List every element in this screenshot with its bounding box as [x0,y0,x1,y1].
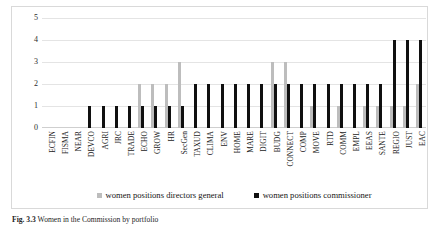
bar-group [346,18,359,128]
bar-group [254,18,267,128]
bar-commissioner [300,84,303,128]
x-axis-label-cell: RTD [320,130,333,187]
bar-commissioner [88,106,91,128]
legend-label: women positions directors general [106,191,224,200]
x-axis-label-cell: COMP [293,130,306,187]
bar-commissioner [379,84,382,128]
bar-group [360,18,373,128]
bar-commissioner [287,84,290,128]
bar-group [214,18,227,128]
x-axis-label-cell: REGIO [386,130,399,187]
bar-commissioner [221,84,224,128]
bar-commissioner [181,106,184,128]
bar-group [267,18,280,128]
bar-commissioner [234,84,237,128]
legend-label: women positions commissioner [263,191,372,200]
x-axis-label-cell: GROW [148,130,161,187]
x-axis-label-cell: ECHO [135,130,148,187]
bar-commissioner [406,40,409,128]
bar-group [307,18,320,128]
x-axis-label-cell: MOVE [307,130,320,187]
bar-commissioner [327,84,330,128]
bar-commissioner [141,106,144,128]
x-axis-label-cell: COMM [333,130,346,187]
bar-commissioner [168,106,171,128]
bar-commissioner [247,84,250,128]
x-axis-label-cell: BUDG [267,130,280,187]
bar-commissioner [154,106,157,128]
y-tick-label-0: 0 [34,124,38,132]
bar-group [55,18,68,128]
plot-area: 5 4 3 2 1 0 [42,18,426,128]
bar-group [95,18,108,128]
y-tick-label-3: 3 [34,58,38,66]
x-axis-label-cell: FISMA [55,130,68,187]
bar-group [399,18,412,128]
x-axis-label-cell: JUST [399,130,412,187]
bar-group [42,18,55,128]
x-axis-label-cell: DEVCO [82,130,95,187]
legend-item: women positions directors general [97,191,224,200]
bar-commissioner [313,84,316,128]
bar-commissioner [207,84,210,128]
bar-group [82,18,95,128]
bar-commissioner [115,106,118,128]
bar-commissioner [340,84,343,128]
bar-group [174,18,187,128]
bar-commissioner [128,106,131,128]
legend-item: women positions commissioner [254,191,372,200]
bar-group [121,18,134,128]
x-axis-label-cell: CLIMA [201,130,214,187]
bar-commissioner [274,84,277,128]
bar-group [386,18,399,128]
x-axis-label: EAC [419,131,426,146]
x-axis-label-cell: DIGIT [254,130,267,187]
bar-group [108,18,121,128]
y-tick-label-2: 2 [34,80,38,88]
bar-group [227,18,240,128]
legend-swatch-icon [97,193,102,198]
figure-caption: Fig. 3.3 Women in the Commission by port… [12,215,432,224]
x-axis-label-cell: CONNECT [280,130,293,187]
x-axis-label-cell: SecGen [174,130,187,187]
bar-commissioner [102,106,105,128]
y-tick-label-1: 1 [34,102,38,110]
x-axis-label-cell: NEAR [68,130,81,187]
x-axis-label-cell: HOME [227,130,240,187]
bar-commissioner [419,40,422,128]
legend-swatch-icon [254,193,259,198]
bar-group [413,18,426,128]
bar-group [241,18,254,128]
x-axis-label-cell: TRADE [121,130,134,187]
bar-commissioner [393,40,396,128]
bar-group [373,18,386,128]
x-axis-label-cell: AGRI [95,130,108,187]
x-axis-label-cell: ENV [214,130,227,187]
chart-legend: women positions directors generalwomen p… [42,191,426,200]
x-axis-label-cell: EAC [413,130,426,187]
bar-commissioner [353,84,356,128]
x-axis-label-cell: TAXUD [188,130,201,187]
bar-group [161,18,174,128]
bar-commissioner [194,84,197,128]
bar-group [201,18,214,128]
x-axis-labels: ECFINFISMANEARDEVCOAGRIJRCTRADEECHOGROWH… [42,130,426,187]
x-axis-label-cell: EEAS [360,130,373,187]
bar-group [148,18,161,128]
bar-group [135,18,148,128]
x-axis-label-cell: JRC [108,130,121,187]
bar-group [333,18,346,128]
bar-commissioner [260,84,263,128]
y-tick-label-4: 4 [34,36,38,44]
x-axis-label-cell: HR [161,130,174,187]
figure-caption-text: Women in the Commission by portfolio [38,215,159,224]
bar-group [68,18,81,128]
bar-group [280,18,293,128]
figure-caption-number: Fig. 3.3 [12,215,36,224]
x-axis-label-cell: ECFIN [42,130,55,187]
bar-group [320,18,333,128]
x-axis-label-cell: MARE [241,130,254,187]
x-axis-label-cell: EMPL [346,130,359,187]
figure-container: 5 4 3 2 1 0 ECFINFISMANEARDEVCOAGRIJRCTR… [0,0,439,229]
y-tick-label-5: 5 [34,14,38,22]
